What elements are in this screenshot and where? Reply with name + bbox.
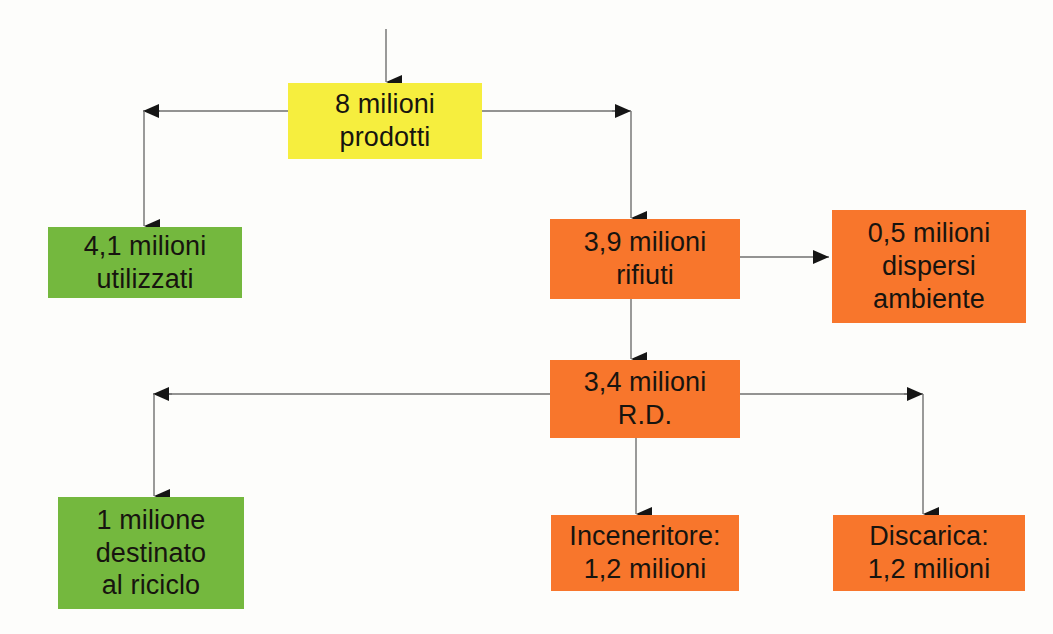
node-rifiuti: 3,9 milioni rifiuti: [550, 219, 740, 299]
connector-prodotti-to-utilizzati: [143, 111, 288, 226]
connector-rd-to-riciclo: [153, 394, 550, 496]
node-prodotti: 8 milioni prodotti: [288, 83, 482, 159]
node-inceneritore: Inceneritore: 1,2 milioni: [551, 515, 739, 591]
node-utilizzati: 4,1 milioni utilizzati: [48, 227, 242, 298]
node-riciclo: 1 milione destinato al riciclo: [58, 497, 244, 609]
node-dispersi-ambiente: 0,5 milioni dispersi ambiente: [832, 210, 1026, 323]
node-discarica: Discarica: 1,2 milioni: [833, 515, 1025, 591]
node-raccolta-differenziata: 3,4 milioni R.D.: [550, 360, 740, 438]
connector-prodotti-to-rifiuti: [482, 111, 631, 218]
connector-rd-to-discarica: [740, 394, 923, 514]
flowchart-diagram: 8 milioni prodotti 4,1 milioni utilizzat…: [0, 0, 1053, 634]
